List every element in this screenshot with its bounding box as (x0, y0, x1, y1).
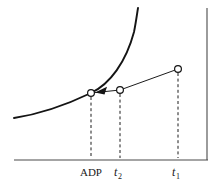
convex-curve (14, 8, 138, 118)
marker-t1 (175, 66, 182, 73)
tick-label-t1: t1 (172, 165, 180, 181)
marker-adp (88, 90, 95, 97)
tick-label-t1-subscript: 1 (176, 172, 180, 181)
tick-label-adp: ADP (80, 166, 102, 178)
chart-canvas: ADP t2 t1 (0, 0, 218, 188)
tick-label-t2-subscript: 2 (118, 172, 122, 181)
figure-container: ADP t2 t1 (0, 0, 218, 188)
marker-t2 (117, 87, 124, 94)
tick-label-t2: t2 (114, 165, 122, 181)
